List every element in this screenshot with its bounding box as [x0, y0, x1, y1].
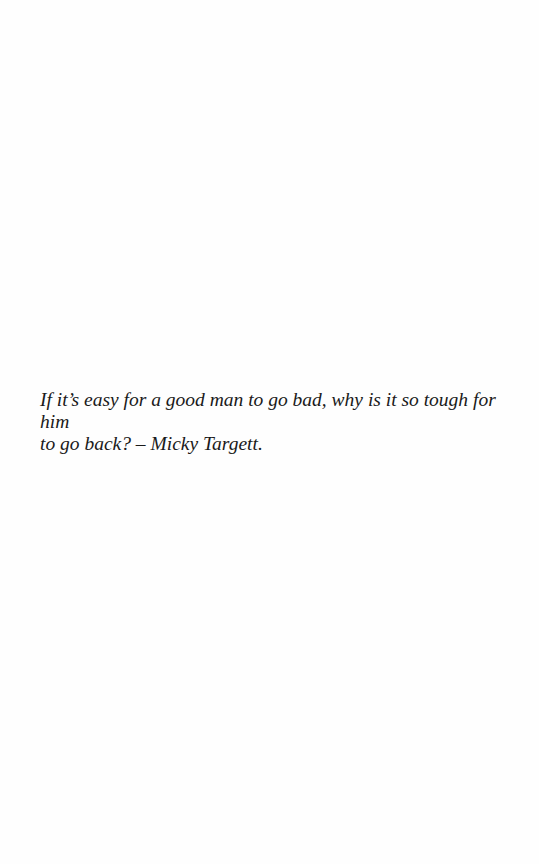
document-page: If it’s easy for a good man to go bad, w…: [0, 0, 539, 864]
epigraph-quote: If it’s easy for a good man to go bad, w…: [40, 389, 505, 455]
quote-line-2: to go back? – Micky Targett.: [40, 433, 263, 454]
quote-line-1: If it’s easy for a good man to go bad, w…: [40, 389, 496, 432]
